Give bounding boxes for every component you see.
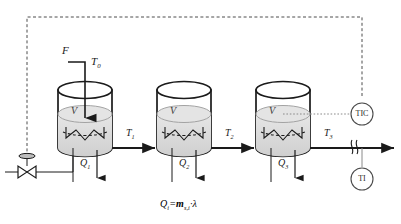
tank-1-outlet-temperature-label: T1 [126,128,135,140]
feed-flow-label: F [62,45,69,56]
tank-3-heat-duty-label: Q3 [278,158,288,170]
tic-tag-label[interactable]: TIC [350,110,374,118]
tank-2-heat-duty-label: Q2 [179,158,189,170]
tank-3-outlet-temperature-label: T3 [324,128,333,140]
tank-2-volume-label: V [170,106,176,116]
tank-1-heat-duty-label: Q1 [80,158,90,170]
tank-2-outlet-temperature-label: T2 [225,128,234,140]
tank-3-volume-label: V [269,106,275,116]
heat-duty-equation: Qi=ms,i·λ [160,198,197,211]
steam-control-valve[interactable] [5,153,45,178]
feed-temperature-label: T0 [91,56,101,70]
diagram-canvas: F T0 V V V T1 T2 T3 Q1 Q2 Q3 TIC TI Qi=m… [0,0,401,224]
diagram-graphics [0,0,401,224]
ti-tag-label[interactable]: TI [350,175,374,183]
tank-1-volume-label: V [71,106,77,116]
process-outlet-line [310,140,394,154]
